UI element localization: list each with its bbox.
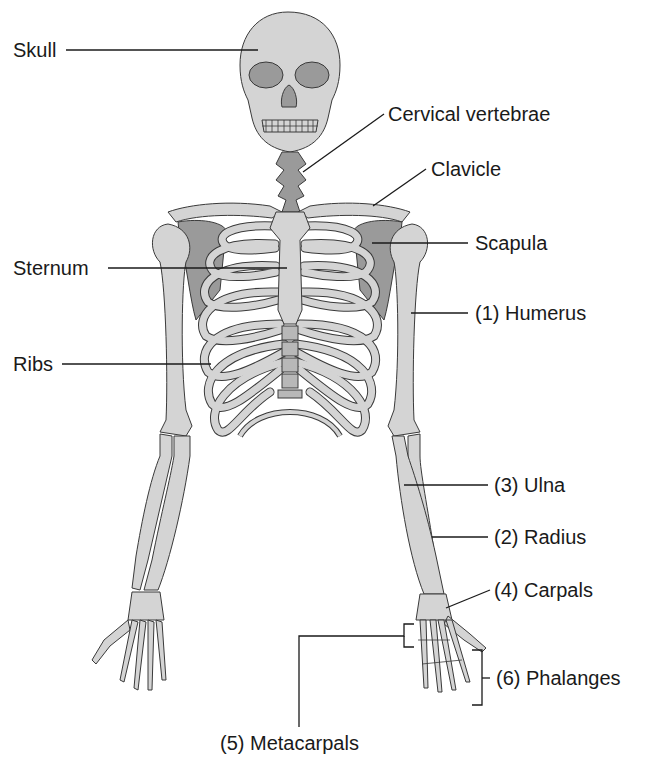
skull [240, 12, 340, 152]
label-humerus: (1) Humerus [475, 303, 586, 323]
label-sternum: Sternum [13, 258, 89, 278]
label-carpals: (4) Carpals [494, 580, 593, 600]
left-forearm [132, 434, 190, 590]
label-radius: (2) Radius [494, 527, 586, 547]
label-phalanges: (6) Phalanges [496, 668, 621, 688]
right-hand [416, 594, 486, 692]
cervical-vertebrae [276, 152, 306, 212]
label-scapula: Scapula [475, 233, 547, 253]
left-humerus [152, 224, 192, 436]
thoracic-spine [278, 326, 302, 398]
label-clavicle: Clavicle [431, 159, 501, 179]
label-ribs: Ribs [13, 354, 53, 374]
left-hand [92, 592, 166, 690]
label-cervical-vertebrae: Cervical vertebrae [388, 104, 550, 124]
label-metacarpals: (5) Metacarpals [220, 733, 359, 753]
right-humerus [388, 224, 428, 436]
label-skull: Skull [13, 40, 56, 60]
right-forearm [392, 434, 444, 594]
label-ulna: (3) Ulna [494, 475, 565, 495]
